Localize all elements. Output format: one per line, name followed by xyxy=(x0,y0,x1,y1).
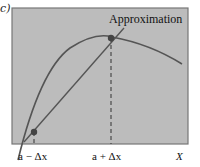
x-axis-label: X xyxy=(176,150,183,162)
plot-area xyxy=(12,8,188,144)
diagram-plot: Approximation xyxy=(0,0,200,167)
approximation-label: Approximation xyxy=(109,12,182,26)
right-point xyxy=(108,35,114,41)
left-point xyxy=(31,129,37,135)
tick-label-a-plus-dx: a + Δx xyxy=(92,150,121,162)
tick-label-a-minus-dx: a − Δx xyxy=(18,150,47,162)
